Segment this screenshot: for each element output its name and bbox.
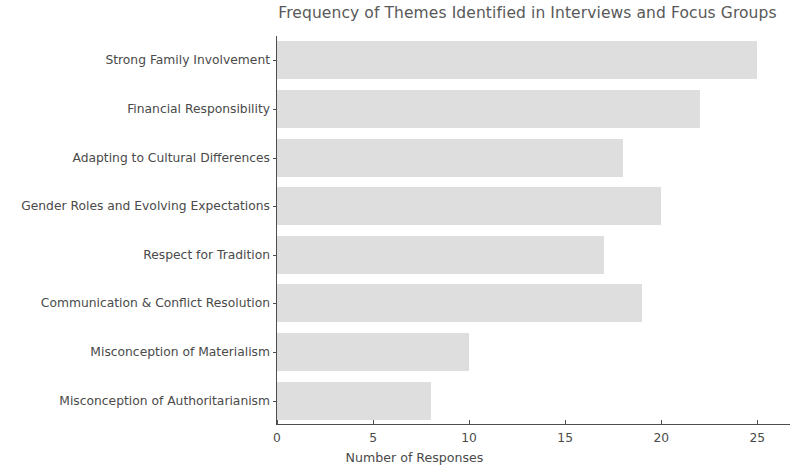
y-tick-mark bbox=[273, 109, 277, 110]
x-tick-label: 15 bbox=[557, 431, 573, 445]
x-tick-mark bbox=[469, 420, 470, 425]
y-tick-label: Adapting to Cultural Differences bbox=[73, 151, 270, 165]
x-tick-mark bbox=[565, 420, 566, 425]
x-axis-title: Number of Responses bbox=[0, 450, 807, 465]
y-tick-mark bbox=[273, 401, 277, 402]
x-tick-mark bbox=[757, 420, 758, 425]
y-tick-label: Gender Roles and Evolving Expectations bbox=[21, 199, 270, 213]
y-tick-label: Strong Family Involvement bbox=[105, 53, 270, 67]
x-tick-label: 20 bbox=[653, 431, 669, 445]
x-axis-spine bbox=[276, 424, 790, 425]
bar bbox=[277, 236, 604, 274]
bar bbox=[277, 139, 623, 177]
plot-area: Strong Family InvolvementFinancial Respo… bbox=[277, 36, 790, 425]
x-tick-label: 5 bbox=[369, 431, 377, 445]
chart-title: Frequency of Themes Identified in Interv… bbox=[0, 4, 807, 22]
y-tick-label: Communication & Conflict Resolution bbox=[41, 296, 270, 310]
chart-figure: Frequency of Themes Identified in Interv… bbox=[0, 0, 807, 476]
y-tick-mark bbox=[273, 255, 277, 256]
x-tick-label: 10 bbox=[461, 431, 477, 445]
y-tick-mark bbox=[273, 352, 277, 353]
y-tick-mark bbox=[273, 206, 277, 207]
y-tick-label: Respect for Tradition bbox=[143, 248, 270, 262]
bar bbox=[277, 284, 642, 322]
bar bbox=[277, 41, 757, 79]
bar bbox=[277, 382, 431, 420]
x-tick-label: 25 bbox=[750, 431, 766, 445]
y-tick-label: Financial Responsibility bbox=[127, 102, 270, 116]
bar bbox=[277, 187, 661, 225]
x-tick-mark bbox=[661, 420, 662, 425]
x-tick-mark bbox=[373, 420, 374, 425]
bar bbox=[277, 333, 469, 371]
y-tick-mark bbox=[273, 303, 277, 304]
y-tick-mark bbox=[273, 158, 277, 159]
y-tick-label: Misconception of Authoritarianism bbox=[59, 394, 270, 408]
x-tick-label: 0 bbox=[273, 431, 281, 445]
x-tick-mark bbox=[277, 420, 278, 425]
y-tick-mark bbox=[273, 60, 277, 61]
bar bbox=[277, 90, 700, 128]
y-tick-label: Misconception of Materialism bbox=[90, 345, 270, 359]
